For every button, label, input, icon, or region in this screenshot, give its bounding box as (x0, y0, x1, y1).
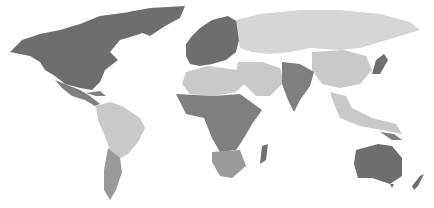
region-south-america-north[interactable] (96, 102, 145, 160)
region-japan[interactable] (372, 54, 388, 74)
world-map (0, 0, 434, 208)
region-caribbean[interactable] (86, 91, 106, 96)
region-middle-east[interactable] (236, 62, 284, 96)
region-europe[interactable] (186, 16, 240, 66)
region-southern-africa[interactable] (212, 150, 246, 178)
region-southeast-asia[interactable] (330, 92, 402, 134)
region-russia[interactable] (236, 10, 420, 54)
region-new-zealand[interactable] (412, 174, 424, 190)
region-east-asia[interactable] (312, 50, 372, 88)
region-madagascar[interactable] (260, 144, 268, 164)
region-tasmania[interactable] (390, 184, 394, 188)
region-north-africa[interactable] (182, 66, 244, 96)
region-south-asia[interactable] (282, 62, 314, 112)
region-sub-saharan-africa[interactable] (176, 94, 262, 152)
region-australia[interactable] (354, 144, 402, 184)
